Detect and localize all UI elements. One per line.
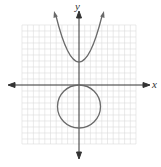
- y-axis-label: y: [75, 1, 80, 12]
- parabola-right-arrow-icon: [100, 11, 104, 18]
- x-axis-right-arrow-icon: [143, 83, 150, 88]
- y-axis-down-arrow-icon: [77, 152, 82, 159]
- x-axis-label: x: [152, 79, 157, 90]
- x-axis-left-arrow-icon: [8, 83, 15, 88]
- parabola-left-arrow-icon: [54, 11, 58, 18]
- coordinate-graph: y x: [0, 0, 161, 167]
- graph-canvas: [0, 0, 161, 167]
- y-axis-up-arrow-icon: [77, 11, 82, 18]
